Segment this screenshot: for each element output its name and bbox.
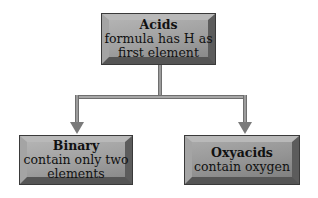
connector-left-drop <box>75 95 79 123</box>
connector-trunk <box>158 65 162 99</box>
binary-desc-line2: elements <box>24 167 129 181</box>
binary-node: Binary contain only two elements <box>19 135 133 185</box>
acids-title: Acids <box>104 18 212 32</box>
acids-node: Acids formula has H as first element <box>101 13 216 65</box>
acids-desc-line2: first element <box>104 46 212 60</box>
binary-title: Binary <box>24 139 129 153</box>
arrow-down-icon <box>70 122 84 134</box>
oxyacids-node: Oxyacids contain oxygen <box>184 135 300 185</box>
connector-branch <box>75 95 247 99</box>
oxyacids-title: Oxyacids <box>194 146 290 160</box>
oxyacids-node-text: Oxyacids contain oxygen <box>194 146 290 174</box>
acids-desc-line1: formula has H as <box>104 32 212 46</box>
acids-node-text: Acids formula has H as first element <box>104 18 212 60</box>
arrow-down-icon <box>238 122 252 134</box>
binary-desc-line1: contain only two <box>24 153 129 167</box>
oxyacids-desc-line1: contain oxygen <box>194 160 290 174</box>
binary-node-text: Binary contain only two elements <box>24 139 129 181</box>
connector-right-drop <box>243 95 247 123</box>
